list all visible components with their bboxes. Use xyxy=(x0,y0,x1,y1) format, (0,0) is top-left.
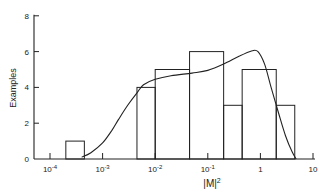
x-tick-exponent: -1 xyxy=(210,164,216,170)
histogram-bin xyxy=(155,70,189,160)
x-tick-label: 10 xyxy=(309,165,318,174)
y-tick-label: 6 xyxy=(25,48,30,57)
histogram-bars xyxy=(66,52,295,159)
histogram-chart: 0246810-410-310-210-1110 Examples |M|2 xyxy=(0,0,328,193)
y-tick-label: 4 xyxy=(25,83,30,92)
x-tick-exponent: -2 xyxy=(157,164,163,170)
x-axis-label-base: |M| xyxy=(203,178,217,189)
histogram-bin xyxy=(137,87,155,159)
x-tick-label: 10-4 xyxy=(43,164,58,174)
x-tick-label: 1 xyxy=(258,165,263,174)
x-tick-label: 10-3 xyxy=(95,164,110,174)
histogram-bin xyxy=(66,141,85,159)
chart-container: 0246810-410-310-210-1110 Examples |M|2 xyxy=(0,0,328,193)
axes: 0246810-410-310-210-1110 xyxy=(25,12,318,174)
x-tick-label: 10-1 xyxy=(201,164,216,174)
distribution-curve-line xyxy=(82,50,297,159)
histogram-bin xyxy=(190,52,224,159)
x-tick-label: 10-2 xyxy=(148,164,163,174)
fit-curve xyxy=(82,50,297,159)
histogram-bin xyxy=(224,105,243,159)
histogram-bin xyxy=(242,70,276,160)
y-tick-label: 0 xyxy=(25,155,30,164)
x-tick-exponent: -3 xyxy=(104,164,110,170)
x-tick-exponent: -4 xyxy=(52,164,58,170)
x-axis-label-exp: 2 xyxy=(217,177,221,184)
x-tick-base: 10 xyxy=(309,165,318,174)
y-tick-label: 2 xyxy=(25,119,30,128)
y-axis-label: Examples xyxy=(8,68,18,108)
x-tick-base: 1 xyxy=(258,165,263,174)
x-axis-label: |M|2 xyxy=(203,177,221,189)
y-tick-label: 8 xyxy=(25,12,30,21)
